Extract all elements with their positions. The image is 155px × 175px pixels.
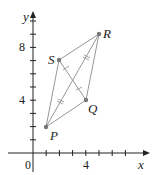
diagonal-SQ — [59, 60, 86, 100]
parallelogram-diagram: y x 0 4 4 8 P Q R S — [0, 0, 155, 175]
origin-label: 0 — [25, 158, 31, 172]
label-P: P — [49, 128, 58, 143]
axes — [8, 17, 143, 172]
point-S — [57, 58, 61, 62]
point-P — [44, 125, 48, 129]
label-Q: Q — [88, 101, 98, 116]
label-S: S — [48, 52, 55, 67]
y-tick-label-4: 4 — [19, 93, 25, 107]
y-axis-label: y — [21, 9, 29, 24]
point-R — [97, 32, 101, 36]
label-R: R — [102, 26, 111, 41]
x-tick-label-4: 4 — [83, 158, 89, 172]
y-arrow-icon — [30, 11, 36, 18]
y-tick-label-8: 8 — [19, 40, 25, 54]
x-axis-label: x — [137, 157, 144, 172]
x-arrow-icon — [143, 150, 150, 156]
coordinate-plane: y x 0 4 4 8 P Q R S — [0, 0, 155, 175]
